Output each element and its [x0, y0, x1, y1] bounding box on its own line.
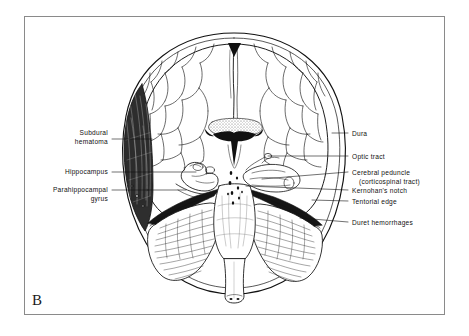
- label-kernohans-notch: Kernohan's notch: [352, 186, 407, 195]
- label-tentorial-edge-line1: Tentorial edge: [352, 198, 397, 205]
- label-parahippocampal-gyrus-line2: gyrus: [91, 195, 108, 202]
- label-parahippocampal-gyrus-line1: Parahippocampal: [53, 186, 108, 193]
- brainstem: [214, 184, 256, 259]
- label-parahippocampal-gyrus: Parahippocampal gyrus: [24, 185, 108, 204]
- label-optic-tract: Optic tract: [352, 152, 385, 161]
- third-ventricle: [228, 140, 241, 169]
- label-duret-hemorrhages-line1: Duret hemorrhages: [352, 219, 413, 226]
- label-cerebral-peduncle: Cerebral peduncle (corticospinal tract): [352, 168, 420, 187]
- label-kernohans-notch-line1: Kernohan's notch: [352, 187, 407, 194]
- label-optic-tract-line1: Optic tract: [352, 153, 385, 160]
- cerebellum-right: [249, 204, 323, 281]
- label-hippocampus-line1: Hippocampus: [65, 168, 108, 175]
- label-tentorial-edge: Tentorial edge: [352, 197, 397, 206]
- label-duret-hemorrhages: Duret hemorrhages: [352, 218, 413, 227]
- label-cerebral-peduncle-line1: Cerebral peduncle: [352, 169, 410, 176]
- label-subdural-hematoma-line1: Subdural: [80, 129, 108, 136]
- panel-letter: B: [32, 292, 43, 309]
- label-subdural-hematoma-line2: hematoma: [75, 138, 108, 145]
- label-subdural-hematoma: Subdural hematoma: [38, 128, 108, 147]
- medulla: [224, 259, 245, 303]
- label-hippocampus: Hippocampus: [38, 167, 108, 176]
- label-dura-line1: Dura: [352, 130, 367, 137]
- figure-root: Subdural hematoma Hippocampus Parahippoc…: [0, 0, 469, 336]
- uncus-herniation: [181, 162, 218, 191]
- leader-tentorial-edge: [312, 200, 348, 201]
- label-dura: Dura: [352, 129, 367, 138]
